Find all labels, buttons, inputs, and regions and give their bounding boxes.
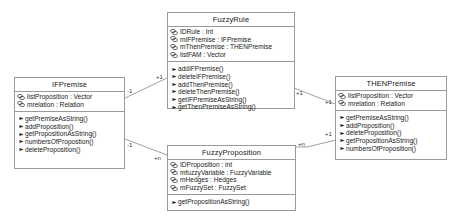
- attribute-row: mrelation : Relation: [338, 100, 446, 108]
- operation-row: addIFPremise(): [172, 65, 294, 73]
- multiplicity-label: +1: [156, 74, 163, 80]
- attribute-row: IDRule : Int: [170, 28, 294, 36]
- multiplicity-label: -1: [127, 142, 132, 148]
- attribute-row: listProposition : Vector: [17, 93, 124, 101]
- class-name: THENPremise: [336, 77, 446, 91]
- attribute-compartment: IDProposition : int mfuzzyVariable : Fuz…: [168, 160, 295, 195]
- attribute-icon: [17, 101, 26, 107]
- operation-compartment: getPremiseAsString() addProposition() ge…: [15, 112, 124, 155]
- attribute-compartment: IDRule : Int mIFPremise : IFPremise mThe…: [168, 27, 294, 62]
- operation-compartment: addIFPremise() deleteIFPremise() addThen…: [168, 62, 294, 113]
- operation-row: getPremiseAsString(): [19, 115, 124, 123]
- attribute-icon: [170, 29, 179, 35]
- operation-icon: [172, 105, 177, 110]
- operation-icon: [340, 131, 345, 136]
- operation-icon: [172, 82, 177, 87]
- attribute-compartment: listProposition : Vector mrelation : Rel…: [336, 91, 446, 111]
- class-box-fuzzyrule[interactable]: FuzzyRule IDRule : Int mIFPremise : IFPr…: [167, 12, 295, 109]
- operation-row: deleteIFPremise(): [172, 73, 294, 81]
- attribute-icon: [170, 169, 179, 175]
- attribute-row: mIFPremise : IFPremise: [170, 36, 294, 44]
- operation-row: deleteProposition(): [340, 129, 446, 137]
- attribute-row: mHedges : Hedges: [170, 176, 295, 184]
- operation-icon: [172, 74, 177, 79]
- attribute-row: listProposition : Vector: [338, 92, 446, 100]
- operation-icon: [172, 67, 177, 72]
- association-fuzzyproposition-thenpremise: [307, 140, 336, 147]
- attribute-compartment: listProposition : Vector mrelation : Rel…: [15, 92, 124, 112]
- operation-row: addProposition(): [340, 122, 446, 130]
- attribute-row: listFAM : Vector: [170, 51, 294, 59]
- attribute-icon: [170, 52, 179, 58]
- operation-row: getIFPremiseAsString(): [172, 96, 294, 104]
- operation-row: getPropositionAsString(): [340, 137, 446, 145]
- class-box-fuzzyproposition[interactable]: FuzzyProposition IDProposition : int mfu…: [167, 145, 296, 211]
- operation-row: getPremiseAsString(): [340, 114, 446, 122]
- multiplicity-label: +n: [154, 155, 161, 161]
- multiplicity-label: +1: [296, 90, 303, 96]
- attribute-row: mfuzzyVariable : FuzzyVariable: [170, 169, 295, 177]
- operation-row: numbersOfProposition(): [340, 145, 446, 153]
- operation-compartment: getPremiseAsString() addProposition() de…: [336, 111, 446, 154]
- multiplicity-label: -1: [127, 88, 132, 94]
- operation-icon: [340, 115, 345, 120]
- attribute-row: mFuzzySet : FuzzySet: [170, 184, 295, 192]
- operation-row: addProposition(): [19, 123, 124, 131]
- operation-row: deleteProposition(): [19, 146, 124, 154]
- operation-row: numbersOfPropostion(): [19, 138, 124, 146]
- operation-row: addThenPremise(): [172, 81, 294, 89]
- class-name: FuzzyRule: [168, 13, 294, 27]
- operation-row: getPropositionAsString(): [172, 198, 295, 206]
- attribute-icon: [338, 100, 347, 106]
- multiplicity-label: +n: [298, 141, 305, 147]
- class-box-ifpremise[interactable]: IFPremise listProposition : Vector mrela…: [14, 77, 125, 169]
- class-name: FuzzyProposition: [168, 146, 295, 160]
- class-box-thenpremise[interactable]: THENPremise listProposition : Vector mre…: [335, 76, 447, 160]
- operation-compartment: getPropositionAsString(): [168, 195, 295, 208]
- operation-icon: [19, 132, 24, 137]
- attribute-icon: [17, 94, 26, 100]
- operation-icon: [340, 138, 345, 143]
- attribute-icon: [170, 36, 179, 42]
- attribute-icon: [170, 44, 179, 50]
- attribute-row: IDProposition : int: [170, 161, 295, 169]
- operation-icon: [172, 89, 177, 94]
- attribute-row: mThenPremise : THENPremise: [170, 43, 294, 51]
- attribute-icon: [338, 93, 347, 99]
- class-name: IFPremise: [15, 78, 124, 92]
- multiplicity-label: +1: [325, 131, 332, 137]
- operation-row: getThenPremiseAsString(): [172, 103, 294, 111]
- attribute-icon: [170, 185, 179, 191]
- operation-icon: [19, 147, 24, 152]
- operation-row: deleteThenPremise(): [172, 88, 294, 96]
- operation-icon: [19, 139, 24, 144]
- operation-icon: [340, 146, 345, 151]
- attribute-row: mrelation : Relation: [17, 101, 124, 109]
- attribute-icon: [170, 177, 179, 183]
- attribute-icon: [170, 162, 179, 168]
- multiplicity-label: +1: [325, 99, 332, 105]
- operation-icon: [172, 97, 177, 102]
- operation-icon: [172, 200, 177, 205]
- operation-row: getPropositionAsString(): [19, 130, 124, 138]
- operation-icon: [19, 124, 24, 129]
- operation-icon: [19, 116, 24, 121]
- operation-icon: [340, 123, 345, 128]
